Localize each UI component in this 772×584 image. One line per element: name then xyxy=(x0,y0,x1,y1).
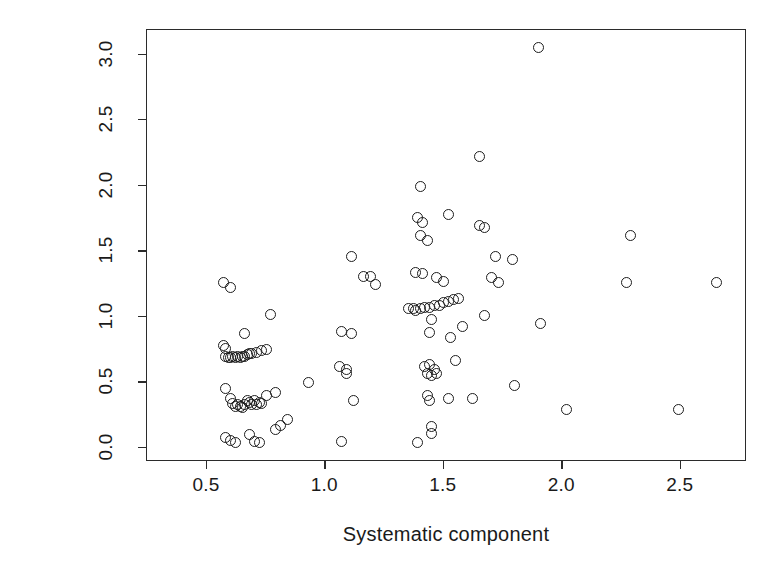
x-tick xyxy=(324,461,325,469)
data-point xyxy=(533,42,544,53)
x-axis-title: Systematic component xyxy=(146,523,746,546)
data-point xyxy=(467,393,478,404)
data-point xyxy=(282,414,293,425)
data-point xyxy=(254,437,265,448)
data-point xyxy=(346,328,357,339)
x-tick xyxy=(561,461,562,469)
data-point xyxy=(417,217,428,228)
data-point xyxy=(445,332,456,343)
data-point xyxy=(507,254,518,265)
data-point xyxy=(479,310,490,321)
data-point xyxy=(450,355,461,366)
data-point xyxy=(561,404,572,415)
y-axis-title-wrapper: Absolute scaled Pearson residuals xyxy=(0,0,280,432)
data-point xyxy=(341,368,352,379)
data-point xyxy=(443,393,454,404)
y-tick xyxy=(138,447,146,448)
data-point xyxy=(490,251,501,262)
x-tick xyxy=(443,461,444,469)
data-point xyxy=(346,251,357,262)
y-tick-label: 0.0 xyxy=(84,435,128,459)
data-point xyxy=(479,222,490,233)
data-point xyxy=(424,327,435,338)
data-point xyxy=(509,380,520,391)
data-point xyxy=(422,235,433,246)
data-point xyxy=(230,437,241,448)
data-point xyxy=(474,151,485,162)
data-point xyxy=(336,436,347,447)
data-point xyxy=(426,314,437,325)
data-point xyxy=(443,209,454,220)
data-point xyxy=(412,437,423,448)
data-point xyxy=(453,293,464,304)
data-point xyxy=(348,395,359,406)
data-point xyxy=(625,230,636,241)
data-point xyxy=(673,404,684,415)
data-point xyxy=(431,368,442,379)
data-point xyxy=(438,276,449,287)
data-point xyxy=(493,277,504,288)
x-tick-label: 2.0 xyxy=(531,474,591,496)
data-point xyxy=(457,321,468,332)
data-point xyxy=(417,268,428,279)
data-point xyxy=(424,395,435,406)
scatter-plot-figure: 0.51.01.52.02.5 0.00.51.01.52.02.53.0 Sy… xyxy=(0,0,772,584)
x-tick-label: 1.0 xyxy=(294,474,354,496)
data-point xyxy=(535,318,546,329)
x-tick-label: 2.5 xyxy=(650,474,710,496)
data-point xyxy=(415,181,426,192)
data-point xyxy=(426,428,437,439)
data-point xyxy=(370,279,381,290)
data-point xyxy=(303,377,314,388)
x-tick xyxy=(206,461,207,469)
data-point xyxy=(711,277,722,288)
data-point xyxy=(621,277,632,288)
x-tick-label: 1.5 xyxy=(413,474,473,496)
x-tick-label: 0.5 xyxy=(176,474,236,496)
x-tick xyxy=(680,461,681,469)
